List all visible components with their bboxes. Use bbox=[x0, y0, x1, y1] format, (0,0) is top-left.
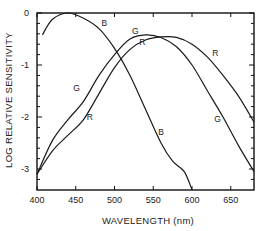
x-axis-title: WAVELENGTH (nm) bbox=[102, 215, 194, 226]
x-tick-label: 400 bbox=[29, 195, 44, 205]
curve-label-R: R bbox=[212, 48, 218, 58]
curves bbox=[37, 13, 254, 190]
curve-labels: BGRRGGRB bbox=[73, 18, 221, 137]
curve-G bbox=[37, 35, 254, 174]
curve-label-R: R bbox=[139, 37, 145, 47]
x-tick-label: 450 bbox=[68, 195, 83, 205]
curve-label-R: R bbox=[87, 112, 93, 122]
sensitivity-chart: 400450500550600650 0-1-2-3 BGRRGGRB WAVE… bbox=[0, 0, 261, 231]
y-tick-label: -3 bbox=[21, 164, 29, 174]
x-tick-label: 600 bbox=[184, 195, 199, 205]
curve-B bbox=[42, 13, 192, 190]
curve-label-G: G bbox=[132, 26, 139, 36]
x-axis: 400450500550600650 bbox=[29, 13, 238, 205]
y-axis-title: LOG RELATIVE SENSITIVITY bbox=[3, 32, 14, 168]
y-tick-label: 0 bbox=[24, 8, 29, 18]
curve-label-G: G bbox=[214, 114, 221, 124]
curve-label-B: B bbox=[158, 127, 164, 137]
y-tick-label: -2 bbox=[21, 112, 29, 122]
x-tick-label: 550 bbox=[146, 195, 161, 205]
x-tick-label: 650 bbox=[223, 195, 238, 205]
curve-label-G: G bbox=[73, 83, 80, 93]
x-tick-label: 500 bbox=[107, 195, 122, 205]
curve-label-B: B bbox=[102, 18, 108, 28]
y-tick-label: -1 bbox=[21, 60, 29, 70]
curve-R bbox=[37, 37, 254, 175]
